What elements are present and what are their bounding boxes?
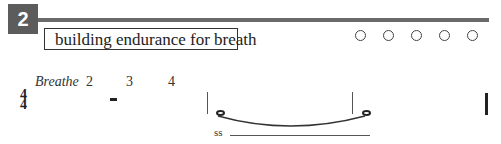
count-breathe: Breathe: [35, 74, 79, 90]
progress-circle[interactable]: [467, 30, 478, 41]
count-4: 4: [168, 74, 175, 90]
exercise-title: building endurance for breath: [44, 28, 238, 50]
dynamic-label: ss: [214, 126, 223, 138]
progress-circle[interactable]: [383, 30, 394, 41]
header-rule: [38, 18, 489, 22]
count-3: 3: [126, 74, 133, 90]
time-sig-bottom: 4: [20, 100, 27, 110]
time-signature: 4 4: [20, 90, 27, 110]
half-rest-icon: [110, 98, 117, 101]
final-barline: [485, 93, 488, 115]
progress-circles: [355, 30, 478, 41]
barline: [352, 92, 353, 114]
progress-circle[interactable]: [411, 30, 422, 41]
progress-circle[interactable]: [439, 30, 450, 41]
tie-icon: [215, 112, 375, 132]
count-2: 2: [86, 74, 93, 90]
exercise-number-badge: 2: [8, 4, 38, 34]
sustain-line: [230, 135, 370, 136]
barline: [207, 92, 208, 114]
progress-circle[interactable]: [355, 30, 366, 41]
